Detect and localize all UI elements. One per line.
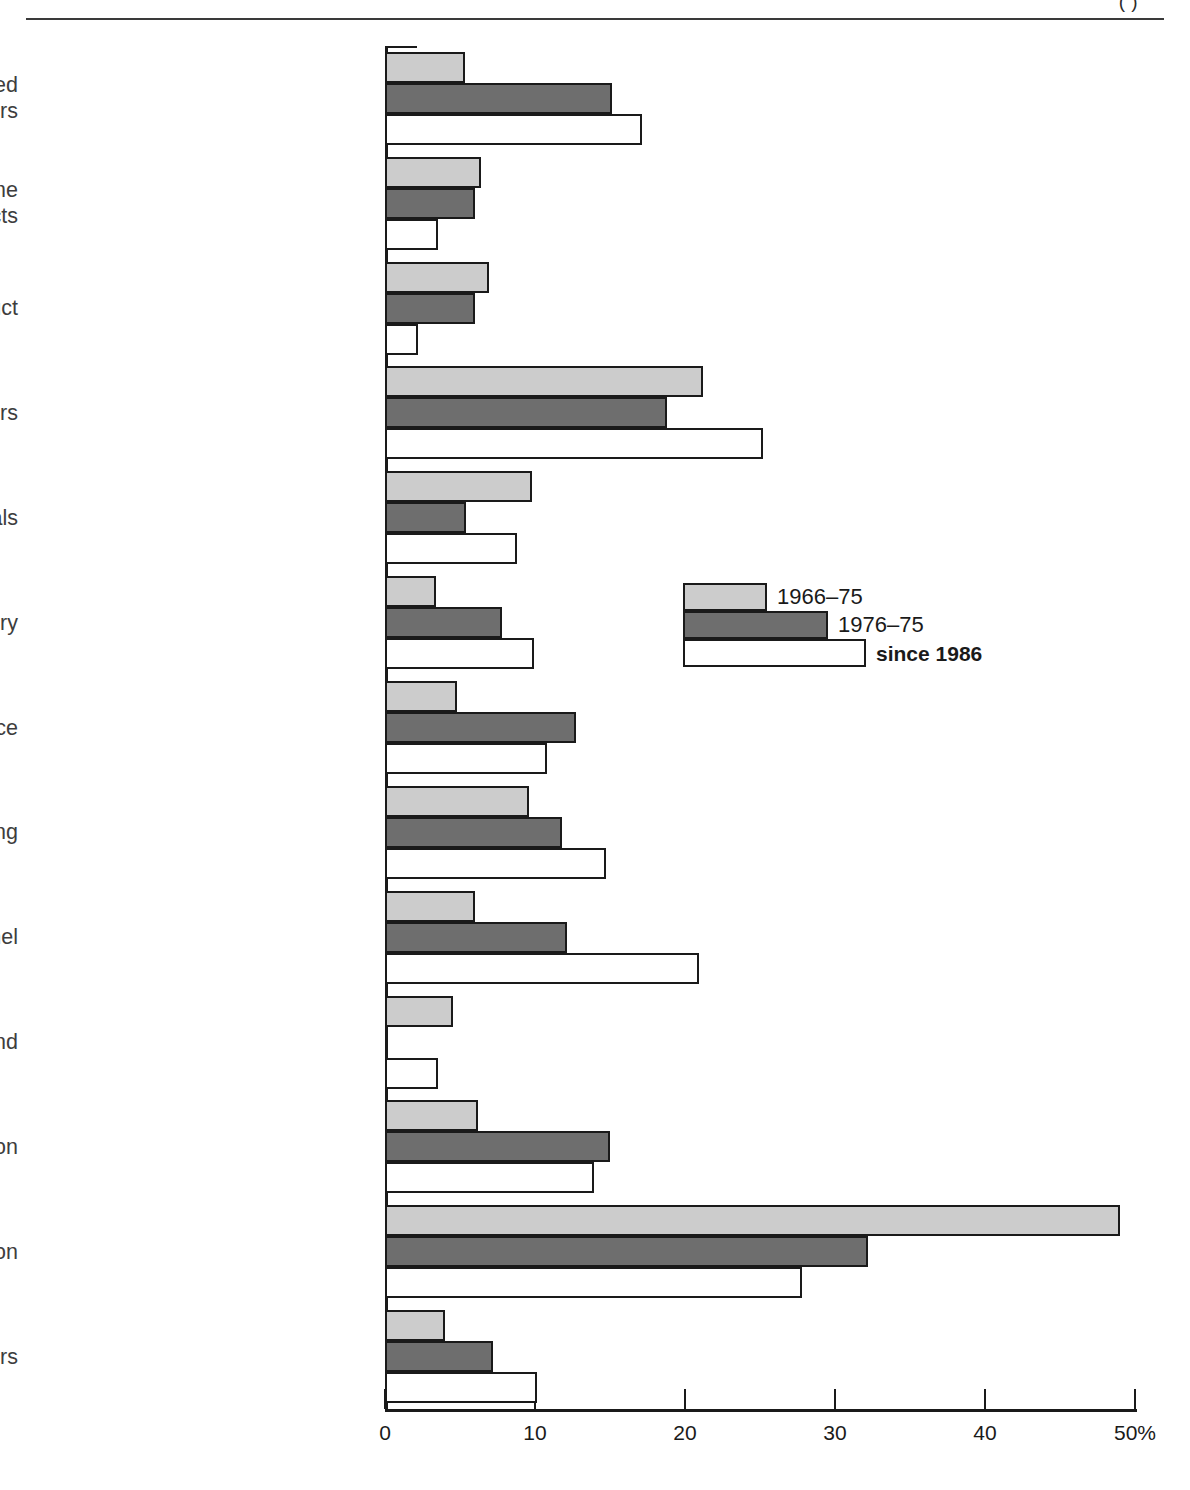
bar xyxy=(385,1267,802,1298)
bar-group: Allowed to use brand xyxy=(0,996,1190,1089)
bar xyxy=(385,52,465,83)
bar xyxy=(385,293,475,324)
bar xyxy=(385,638,534,669)
bar-group: Purchased some of firm's products xyxy=(0,157,1190,250)
bar xyxy=(385,712,576,743)
bar xyxy=(385,681,457,712)
bar xyxy=(385,1131,610,1162)
bar-group: Absolutely no relation xyxy=(0,1205,1190,1298)
bar xyxy=(385,157,481,188)
bar-group: Received subcontracting orders xyxy=(0,366,1190,459)
bar xyxy=(385,786,529,817)
bar xyxy=(385,1372,537,1403)
category-label: Purchased some of firm's products xyxy=(0,177,18,229)
bar xyxy=(385,743,547,774)
bar xyxy=(385,219,438,250)
bar-group: Able to purchase machinery xyxy=(0,576,1190,669)
bar xyxy=(385,1236,868,1267)
category-label: Allowed to use brand xyxy=(0,1029,18,1055)
bar xyxy=(385,397,667,428)
bar xyxy=(385,576,436,607)
bar xyxy=(385,502,466,533)
bar xyxy=(385,1100,478,1131)
bar-group: Received some preferred customers xyxy=(0,52,1190,145)
bar-group: Others xyxy=(0,1310,1190,1403)
bar xyxy=(385,1162,594,1193)
bar xyxy=(385,953,699,984)
bar xyxy=(385,533,517,564)
horizontal-bar-chart: 1966–751976–75since 1986 01020304050%Rec… xyxy=(0,0,1190,1490)
category-label: Loaned personnel xyxy=(0,924,18,950)
category-label: Received financing xyxy=(0,819,18,845)
bar xyxy=(385,891,475,922)
category-label: Others xyxy=(0,1344,18,1370)
bar-group: Able to purchase parts and materials xyxy=(0,471,1190,564)
x-axis-tick-label: 30 xyxy=(823,1421,846,1445)
bar-group: Received financing xyxy=(0,786,1190,879)
x-axis-tick-label: 20 xyxy=(673,1421,696,1445)
bar xyxy=(385,848,606,879)
bar-group: Received technological assistance xyxy=(0,681,1190,774)
category-label: Absolutely no relation xyxy=(0,1239,18,1265)
bar xyxy=(385,471,532,502)
category-label: Received some preferred customers xyxy=(0,72,18,124)
bar-group: Loaned personnel xyxy=(0,891,1190,984)
bar xyxy=(385,262,489,293)
bar xyxy=(385,1310,445,1341)
bar xyxy=(385,996,453,1027)
x-axis-tick-label: 10 xyxy=(523,1421,546,1445)
bar xyxy=(385,188,475,219)
bar xyxy=(385,817,562,848)
bar xyxy=(385,607,502,638)
bar-group: Purchased firm's product xyxy=(0,262,1190,355)
bar xyxy=(385,366,703,397)
bar xyxy=(385,1341,493,1372)
category-label: Received subcontracting orders xyxy=(0,400,18,426)
bar xyxy=(385,1205,1120,1236)
category-label: Competitive relation xyxy=(0,1134,18,1160)
bar xyxy=(385,1058,438,1089)
category-label: Purchased firm's product xyxy=(0,295,18,321)
x-axis-tick-label: 50% xyxy=(1114,1421,1156,1445)
bar xyxy=(385,114,642,145)
category-label: Able to purchase machinery xyxy=(0,610,18,636)
bar xyxy=(385,428,763,459)
bar xyxy=(385,324,418,355)
bar xyxy=(385,83,612,114)
x-axis-tick-label: 0 xyxy=(379,1421,391,1445)
category-label: Received technological assistance xyxy=(0,715,18,741)
bar-group: Competitive relation xyxy=(0,1100,1190,1193)
category-label: Able to purchase parts and materials xyxy=(0,505,18,531)
bar xyxy=(385,922,567,953)
x-axis-tick-label: 40 xyxy=(973,1421,996,1445)
